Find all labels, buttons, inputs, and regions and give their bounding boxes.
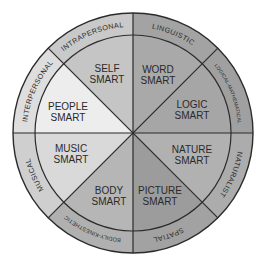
body-smart-label: BODYSMART [92, 185, 127, 207]
wheel-outlines [13, 13, 253, 253]
nature-smart-label: NATURESMART [172, 144, 213, 166]
self-smart-label: SELFSMART [90, 63, 125, 85]
logic-smart-label: LOGICSMART [175, 99, 210, 121]
people-smart-label: PEOPLESMART [48, 101, 88, 123]
word-smart-label: WORDSMART [141, 64, 176, 86]
music-smart-label: MUSICSMART [54, 143, 89, 165]
intelligences-wheel: WORDSMART LOGICSMART NATURESMART PICTURE… [0, 0, 266, 267]
picture-smart-label: PICTURESMART [138, 185, 182, 207]
